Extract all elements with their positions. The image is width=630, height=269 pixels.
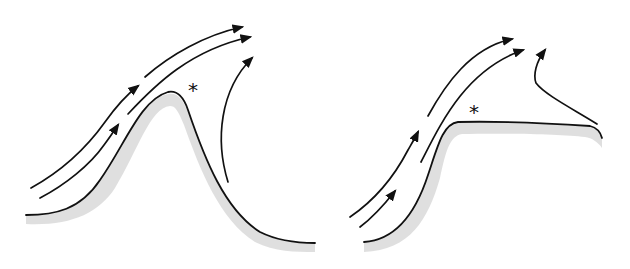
ridge-terrain-shading bbox=[26, 94, 315, 252]
ridge-separation-marker: * bbox=[188, 78, 198, 102]
ridge-streamline-outer-upper bbox=[145, 27, 242, 77]
airflow-terrain-diagram: * * bbox=[0, 0, 630, 269]
ridge-panel: * bbox=[26, 27, 315, 252]
escarpment-separation-marker: * bbox=[469, 100, 479, 124]
ridge-lee-updraft-streamline bbox=[221, 58, 252, 182]
escarpment-ground-line bbox=[364, 122, 602, 242]
escarpment-streamline-inner-lower bbox=[360, 191, 395, 227]
ridge-ground-line bbox=[26, 92, 315, 243]
escarpment-panel: * bbox=[350, 39, 602, 252]
escarpment-reattachment-streamline bbox=[535, 50, 597, 124]
escarpment-terrain-shading bbox=[364, 123, 602, 252]
